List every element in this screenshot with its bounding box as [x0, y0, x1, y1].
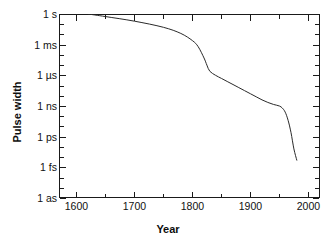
y-axis-tick-major-right [313, 14, 319, 15]
x-axis-tick-minor-top [105, 15, 106, 19]
y-axis-tick-minor [60, 86, 64, 87]
y-axis-tick-major [60, 106, 66, 107]
y-axis-tick-minor-right [315, 188, 319, 189]
y-axis-tick-major [60, 198, 66, 199]
y-axis-tick-major [60, 75, 66, 76]
y-axis-tick-minor-right [315, 24, 319, 25]
x-axis-tick-major [192, 192, 193, 198]
y-axis-tick-minor [60, 157, 64, 158]
y-axis-title: Pulse width [11, 57, 23, 167]
y-axis-tick-minor [60, 126, 64, 127]
x-axis-tick-major [134, 192, 135, 198]
y-axis-tick-major-right [313, 198, 319, 199]
x-axis-tick-minor-top [221, 15, 222, 19]
y-axis-tick-major-right [313, 137, 319, 138]
y-axis-tick-minor [60, 55, 64, 56]
y-axis-tick-minor [60, 65, 64, 66]
plot-data-layer [59, 14, 320, 198]
x-axis-tick-label: 2000 [297, 201, 320, 212]
y-axis-tick-minor-right [315, 65, 319, 66]
x-axis-tick-major-top [134, 15, 135, 21]
y-axis-tick-minor-right [315, 147, 319, 148]
y-axis-tick-minor [60, 116, 64, 117]
y-axis-tick-label: 1 fs [40, 162, 57, 173]
y-axis-tick-label: 1 as [37, 193, 57, 204]
y-axis-tick-minor-right [315, 178, 319, 179]
x-axis-tick-minor [221, 194, 222, 198]
y-axis-tick-label: 1 s [43, 9, 57, 20]
y-axis-tick-major-right [313, 167, 319, 168]
y-axis-tick-minor-right [315, 96, 319, 97]
y-axis-tick-major [60, 14, 66, 15]
x-axis-tick-minor [163, 194, 164, 198]
y-axis-tick-minor-right [315, 116, 319, 117]
y-axis-tick-minor [60, 96, 64, 97]
x-axis-tick-label: 1600 [65, 201, 88, 212]
x-axis-tick-minor-top [163, 15, 164, 19]
x-axis-tick-major-top [192, 15, 193, 21]
x-axis-tick-major-top [250, 15, 251, 21]
y-axis-tick-major [60, 137, 66, 138]
y-axis-tick-minor [60, 188, 64, 189]
y-axis-tick-label: 1 ns [37, 101, 57, 112]
x-axis-tick-minor-top [279, 15, 280, 19]
y-axis-tick-minor-right [315, 86, 319, 87]
y-axis-tick-minor-right [315, 126, 319, 127]
x-axis-tick-major-top [308, 15, 309, 21]
y-axis-tick-label: 1 µs [37, 70, 57, 81]
x-axis-tick-label: 1700 [123, 201, 146, 212]
y-axis-tick-label: 1 ps [37, 131, 57, 142]
x-axis-tick-label: 1900 [239, 201, 262, 212]
series-line-pulse-width [88, 14, 297, 160]
x-axis-tick-major-top [76, 15, 77, 21]
chart-screenshot: 1 s1 ms1 µs1 ns1 ps1 fs1 as1600170018001… [0, 0, 336, 245]
y-axis-tick-minor [60, 34, 64, 35]
y-axis-tick-minor-right [315, 34, 319, 35]
x-axis-tick-major [250, 192, 251, 198]
y-axis-tick-major-right [313, 75, 319, 76]
x-axis-title: Year [0, 223, 336, 235]
y-axis-tick-minor [60, 178, 64, 179]
x-axis-tick-major [76, 192, 77, 198]
y-axis-tick-minor-right [315, 55, 319, 56]
x-axis-tick-minor [279, 194, 280, 198]
y-axis-tick-minor [60, 24, 64, 25]
x-axis-tick-major [308, 192, 309, 198]
x-axis-tick-minor [105, 194, 106, 198]
y-axis-tick-minor [60, 147, 64, 148]
x-axis-tick-label: 1800 [181, 201, 204, 212]
y-axis-tick-major [60, 45, 66, 46]
y-axis-tick-major-right [313, 45, 319, 46]
y-axis-tick-label: 1 ms [34, 39, 57, 50]
y-axis-tick-major-right [313, 106, 319, 107]
y-axis-tick-major [60, 167, 66, 168]
y-axis-tick-minor-right [315, 157, 319, 158]
